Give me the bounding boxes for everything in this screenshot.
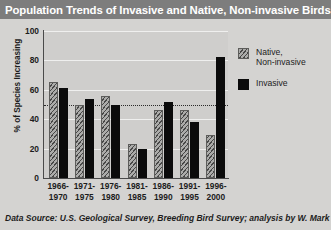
bar-native	[206, 135, 215, 178]
legend-swatch-native-non-invasive	[238, 48, 249, 59]
bar-invasive	[190, 122, 199, 178]
legend-label-invasive: Invasive	[256, 78, 288, 88]
y-tick-0: 0	[15, 173, 39, 183]
legend-item-invasive: Invasive	[238, 78, 330, 90]
chart-screenshot: Population Trends of Invasive and Native…	[0, 0, 331, 230]
bar-group	[49, 31, 68, 178]
chart-legend: Native,Non-invasiveInvasive	[238, 47, 330, 101]
page-title: Population Trends of Invasive and Native…	[0, 4, 331, 16]
x-tick-line2: 2000	[199, 192, 233, 203]
x-tick-6: 1996-2000	[199, 181, 233, 203]
legend-swatch-invasive	[238, 79, 249, 90]
bar-groups	[44, 31, 228, 178]
y-axis-tick-labels: 020406080100	[13, 19, 39, 207]
bar-invasive	[138, 149, 147, 178]
bar-group	[154, 31, 173, 178]
bar-group	[128, 31, 147, 178]
bar-invasive	[59, 88, 68, 178]
legend-label-line1: Invasive	[256, 78, 288, 88]
bar-native	[180, 110, 189, 178]
data-source-footnote: Data Source: U.S. Geological Survey, Bre…	[5, 213, 330, 223]
bar-invasive	[216, 57, 225, 178]
x-tick-line1: 1996-	[199, 181, 233, 192]
legend-label-native-non-invasive: Native,Non-invasive	[256, 47, 306, 67]
bar-group	[101, 31, 120, 178]
bar-native	[101, 96, 110, 178]
bar-invasive	[111, 105, 120, 179]
bar-group	[180, 31, 199, 178]
bar-invasive	[164, 102, 173, 178]
y-tick-20: 20	[15, 144, 39, 154]
plot-area	[44, 31, 228, 178]
y-tick-60: 60	[15, 85, 39, 95]
bar-native	[49, 82, 58, 178]
bar-native	[128, 144, 137, 178]
bar-group	[75, 31, 94, 178]
bar-group	[206, 31, 225, 178]
x-axis-tick-labels: 1966-19701971-19751976-19801981-19851986…	[44, 181, 234, 207]
chart-canvas: % of Species Increasing 020406080100 196…	[0, 19, 331, 207]
y-tick-40: 40	[15, 114, 39, 124]
y-tick-100: 100	[15, 26, 39, 36]
bar-native	[75, 105, 84, 179]
bar-invasive	[85, 99, 94, 178]
y-tick-80: 80	[15, 55, 39, 65]
x-axis-line	[43, 178, 229, 179]
legend-item-native-non-invasive: Native,Non-invasive	[238, 47, 330, 67]
chart-title-bar: Population Trends of Invasive and Native…	[0, 0, 331, 19]
bar-native	[154, 110, 163, 178]
legend-label-line1: Native,	[256, 47, 306, 57]
legend-label-line2: Non-invasive	[256, 57, 306, 67]
